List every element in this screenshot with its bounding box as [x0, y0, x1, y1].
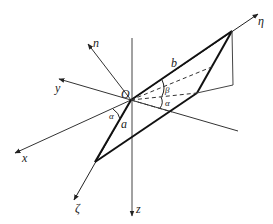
z-label: z	[135, 202, 141, 216]
x-label: x	[21, 151, 28, 165]
vertical-projection	[232, 31, 233, 85]
eta-label: η	[258, 14, 264, 28]
alpha-right-label: α	[165, 98, 170, 108]
edge-b-label: b	[171, 56, 177, 70]
edge-bottom	[95, 93, 197, 162]
origin-label: O	[121, 87, 130, 101]
x-axis	[15, 100, 131, 153]
alpha-arc-right	[160, 97, 162, 108]
beta-arc	[162, 80, 164, 96]
edge-right	[197, 31, 232, 93]
y-label: y	[54, 81, 61, 95]
diagram-canvas: O n y x ζ z η b a β α α	[0, 0, 273, 224]
beta-label: β	[164, 85, 170, 95]
projection-base	[197, 85, 233, 93]
zeta-label: ζ	[75, 201, 81, 215]
edge-a-label: a	[121, 117, 127, 131]
n-label: n	[93, 36, 99, 50]
alpha-arc-left	[113, 109, 120, 119]
edge-b	[131, 31, 232, 100]
alpha-left-label: α	[109, 111, 114, 121]
